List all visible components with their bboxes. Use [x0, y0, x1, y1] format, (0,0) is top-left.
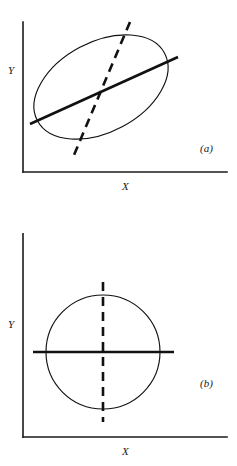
panel-a-x-axis-label: X — [121, 180, 130, 192]
panel-a-y-axis-label: Y — [8, 64, 16, 76]
panel-b-caption: (b) — [200, 377, 213, 390]
panel-a-major-axis — [30, 57, 178, 124]
panel-b: Y X (b) — [0, 233, 237, 466]
panel-a: Y X (a) — [0, 0, 237, 233]
panel-b-y-axis-label: Y — [8, 318, 16, 330]
panel-a-caption: (a) — [200, 142, 213, 155]
figure-root: Y X (a) Y X (b) — [0, 0, 237, 466]
panel-a-data-envelope-ellipse — [16, 13, 185, 160]
panel-b-x-axis-label: X — [121, 445, 130, 457]
